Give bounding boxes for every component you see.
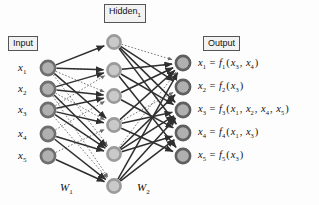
weight-label-w2-subscript: 2 — [146, 188, 150, 196]
weight-label-w1-text: W — [60, 181, 69, 193]
weight-label-w2: W2 — [137, 181, 150, 196]
connection-dotted — [55, 101, 105, 130]
hidden-node-3[interactable] — [107, 89, 120, 102]
connection-solid — [56, 160, 105, 182]
input-node-1[interactable] — [41, 61, 55, 75]
input-node-label-5: x5 — [18, 149, 26, 164]
input-node-5[interactable] — [41, 149, 55, 163]
connection-dotted — [53, 96, 108, 177]
output-node-2[interactable] — [176, 80, 190, 94]
output-equation-2: x2 = f2(x3) — [198, 80, 244, 93]
input-node-3[interactable] — [41, 103, 55, 117]
edges-input-to-hidden-solid — [54, 46, 107, 182]
output-node-4[interactable] — [176, 126, 190, 140]
connection-solid — [56, 46, 104, 65]
input-node-label-2: x2 — [18, 82, 26, 97]
hidden-node-4[interactable] — [107, 118, 120, 131]
output-equation-5: x5 = f5(x3) — [198, 149, 244, 162]
connection-dotted — [121, 92, 173, 121]
hidden-node-6[interactable] — [107, 179, 120, 192]
layer-label-hidden1: Hidden1 — [104, 4, 146, 23]
hidden-node-5[interactable] — [107, 147, 120, 160]
output-equation-3: x3 = f3(x1, x2, x4, x5) — [198, 103, 290, 116]
hidden-node-2[interactable] — [107, 63, 120, 76]
output-equation-4: x4 = f4(x1, x3) — [198, 126, 259, 139]
input-node-label-1: x1 — [18, 61, 26, 76]
layer-label-hidden1-subscript: 1 — [138, 12, 141, 18]
output-node-1[interactable] — [176, 56, 190, 70]
neural-network-diagram: Input Hidden1 Output W1 W2 x1x2x3x4x5 x1… — [0, 0, 319, 205]
input-node-label-3: x3 — [18, 103, 26, 118]
edges-hidden-to-output-solid — [118, 46, 178, 181]
weight-label-w2-text: W — [137, 181, 146, 193]
weight-label-w1-subscript: 1 — [69, 188, 73, 196]
input-node-4[interactable] — [41, 127, 55, 141]
output-node-3[interactable] — [176, 103, 190, 117]
hidden-node-1[interactable] — [107, 35, 120, 48]
input-node-2[interactable] — [41, 82, 55, 96]
layer-label-hidden1-text: Hidden — [109, 6, 138, 16]
connection-solid — [56, 90, 103, 95]
connection-solid — [57, 68, 104, 69]
weight-label-w1: W1 — [60, 181, 73, 196]
layer-label-output: Output — [203, 36, 240, 51]
input-node-label-4: x4 — [18, 127, 26, 142]
layer-label-output-text: Output — [208, 38, 235, 48]
layer-label-input: Input — [8, 36, 38, 51]
connection-solid — [122, 64, 172, 69]
output-equation-1: x1 = f1(x3, x4) — [198, 57, 259, 70]
connection-solid — [56, 136, 104, 151]
connection-solid — [55, 139, 106, 179]
output-node-5[interactable] — [176, 149, 190, 163]
layer-label-input-text: Input — [13, 38, 33, 48]
